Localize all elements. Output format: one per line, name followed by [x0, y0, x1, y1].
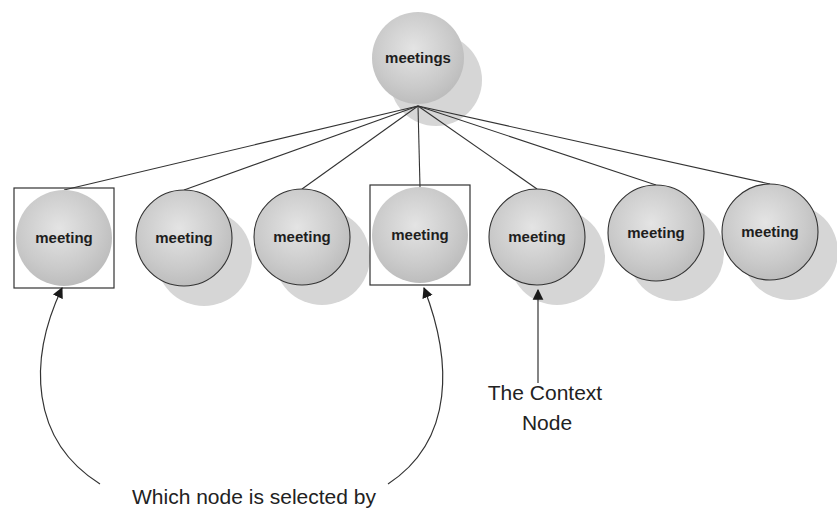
child-node-meeting-selected: meeting [370, 185, 470, 285]
tree-edge [184, 106, 418, 190]
child-node-meeting-selected: meeting [14, 188, 114, 288]
node-label: meeting [391, 226, 449, 243]
node-label: meeting [508, 228, 566, 245]
root-node-meetings: meetings [372, 12, 464, 104]
tree-edge [302, 106, 418, 189]
selected-caption: Which node is selected by [132, 485, 376, 508]
node-label: meeting [741, 223, 799, 240]
selected-arrow-left [41, 288, 100, 484]
node-label: meeting [155, 229, 213, 246]
node-label: meeting [627, 224, 685, 241]
node-label: meetings [385, 49, 451, 66]
child-node-meeting: meeting [722, 184, 818, 280]
child-node-meeting-context: meeting [489, 189, 585, 285]
child-node-meeting: meeting [608, 185, 704, 281]
child-node-meeting: meeting [254, 189, 350, 285]
tree-edge [418, 106, 770, 184]
selected-arrow-right [388, 288, 443, 484]
tree-edge [418, 106, 656, 185]
tree-diagram: meetingsmeetingmeetingmeetingmeetingmeet… [0, 0, 837, 516]
child-node-meeting: meeting [136, 190, 232, 286]
tree-edge [418, 106, 537, 189]
tree-nodes: meetingsmeetingmeetingmeetingmeetingmeet… [14, 12, 818, 288]
context-node-label-line2: Node [522, 411, 572, 434]
context-node-label-line1: The Context [488, 381, 603, 404]
tree-edge [64, 106, 418, 190]
node-label: meeting [35, 229, 93, 246]
node-label: meeting [273, 228, 331, 245]
